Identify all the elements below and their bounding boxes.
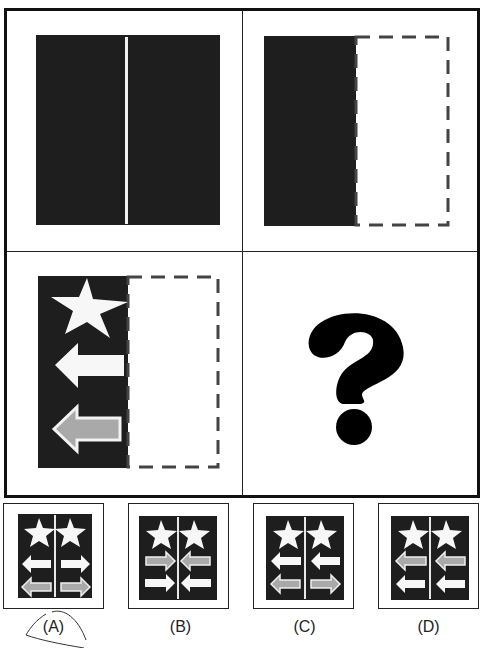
option-d-figure <box>379 504 482 610</box>
dark-square-with-line-figure <box>7 11 243 252</box>
half-figure-with-shapes <box>7 252 243 495</box>
cell-top-left <box>7 11 243 252</box>
option-a[interactable] <box>3 503 104 609</box>
handwritten-circle-mark <box>0 600 120 648</box>
option-b-figure <box>129 504 233 610</box>
cell-bottom-left <box>7 252 243 495</box>
option-b-label[interactable]: (B) <box>130 618 231 636</box>
option-c[interactable] <box>253 503 354 609</box>
cell-top-right <box>243 11 477 252</box>
option-d[interactable] <box>378 503 479 609</box>
option-c-figure <box>254 504 357 610</box>
option-b[interactable] <box>128 503 229 609</box>
half-dark-half-dashed-figure <box>243 11 477 252</box>
option-c-label[interactable]: (C) <box>254 618 355 636</box>
question-mark-icon <box>243 252 477 495</box>
option-a-figure <box>4 504 105 610</box>
cell-bottom-right <box>243 252 477 495</box>
puzzle-grid <box>4 8 480 498</box>
option-d-label[interactable]: (D) <box>378 618 479 636</box>
